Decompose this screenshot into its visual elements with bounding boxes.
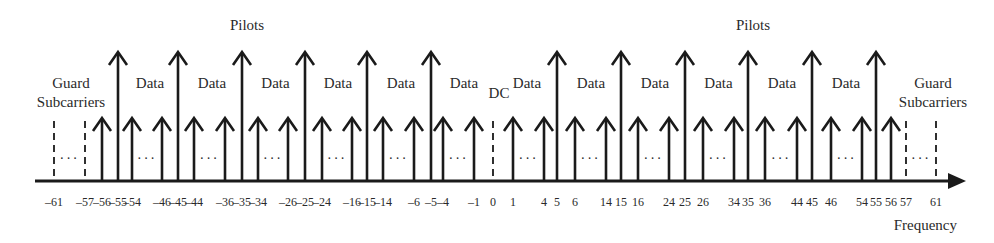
- ellipsis-mark: ···: [389, 151, 409, 166]
- data-subcarrier-arrow: [882, 118, 900, 181]
- ellipsis-mark: ···: [60, 151, 80, 166]
- tick-label: 36: [759, 195, 771, 209]
- ellipsis-mark: ···: [137, 151, 157, 166]
- data-region-label: Data: [450, 75, 479, 91]
- tick-label: 14: [600, 195, 612, 209]
- data-subcarrier-arrow: [434, 118, 452, 181]
- tick-label: 0: [490, 195, 496, 209]
- data-region-label: Data: [577, 75, 606, 91]
- pilot-subcarrier-arrow: [422, 52, 440, 181]
- data-subcarrier-arrow: [93, 118, 111, 181]
- ellipsis-mark: ···: [911, 151, 931, 166]
- data-region-label: Data: [198, 75, 227, 91]
- pilot-subcarrier-arrow: [803, 52, 821, 181]
- tick-label: 44: [791, 195, 803, 209]
- axis-arrowhead-icon: [948, 173, 966, 189]
- tick-label: 25: [679, 195, 691, 209]
- ellipsis-mark: ···: [709, 151, 729, 166]
- tick-label: –14: [373, 195, 392, 209]
- frequency-axis: [35, 173, 966, 189]
- tick-label: –6: [407, 195, 420, 209]
- data-subcarrier-arrow: [216, 118, 234, 181]
- tick-label: 61: [930, 195, 942, 209]
- axis-label-frequency: Frequency: [894, 217, 958, 233]
- tick-label: 4: [541, 195, 547, 209]
- ellipsis-marks: ········································…: [60, 151, 932, 166]
- data-subcarrier-arrow: [153, 118, 171, 181]
- ellipsis-mark: ···: [581, 151, 601, 166]
- data-subcarrier-arrow: [597, 118, 615, 181]
- ellipsis-mark: ···: [837, 151, 857, 166]
- pilot-subcarrier-arrow: [739, 52, 757, 181]
- guard-label-line2: Subcarriers: [899, 94, 967, 110]
- tick-label: 16: [632, 195, 644, 209]
- subcarrier-lines: [54, 52, 936, 181]
- tick-label: 6: [572, 195, 578, 209]
- data-subcarrier-arrow: [629, 118, 647, 181]
- tick-label: –5: [424, 195, 437, 209]
- data-subcarrier-arrow: [725, 118, 743, 181]
- tick-label: 26: [697, 195, 709, 209]
- ellipsis-mark: ···: [200, 151, 220, 166]
- data-region-label: Data: [832, 75, 861, 91]
- tick-label: 57: [900, 195, 912, 209]
- tick-label: –1: [467, 195, 480, 209]
- data-subcarrier-arrow: [566, 118, 584, 181]
- data-region-label: Data: [324, 75, 353, 91]
- tick-label: –25: [295, 195, 314, 209]
- pilot-subcarrier-arrow: [109, 52, 127, 181]
- tick-label: –54: [122, 195, 141, 209]
- data-subcarrier-arrow: [465, 118, 483, 181]
- pilot-subcarrier-arrow: [548, 52, 566, 181]
- guard-subcarriers-label-left: GuardSubcarriers: [37, 75, 105, 110]
- region-labels: PilotsPilotsDataDataDataDataDataDataData…: [37, 17, 967, 110]
- data-subcarrier-arrow: [660, 118, 678, 181]
- data-subcarrier-arrow: [853, 118, 871, 181]
- pilot-subcarrier-arrow: [676, 52, 694, 181]
- data-subcarrier-arrow: [313, 118, 331, 181]
- data-subcarrier-arrow: [249, 118, 267, 181]
- tick-label: –61: [44, 195, 63, 209]
- tick-label: 46: [825, 195, 837, 209]
- ofdm-subcarrier-diagram: ········································…: [0, 0, 994, 243]
- ellipsis-mark: ···: [771, 151, 791, 166]
- tick-label: –57: [75, 195, 94, 209]
- tick-label: –24: [312, 195, 331, 209]
- data-region-label: Data: [704, 75, 733, 91]
- data-subcarrier-arrow: [123, 118, 141, 181]
- data-subcarrier-arrow: [535, 118, 553, 181]
- pilot-subcarrier-arrow: [612, 52, 630, 181]
- pilot-subcarrier-arrow: [296, 52, 314, 181]
- data-subcarrier-arrow: [405, 118, 423, 181]
- tick-label: 1: [510, 195, 516, 209]
- pilot-subcarrier-arrow: [358, 52, 376, 181]
- pilot-subcarrier-arrow: [169, 52, 187, 181]
- ellipsis-mark: ···: [263, 151, 283, 166]
- pilots-label: Pilots: [736, 17, 770, 33]
- guard-subcarriers-label-right: GuardSubcarriers: [899, 75, 967, 110]
- tick-label: 34: [728, 195, 740, 209]
- guard-label-line2: Subcarriers: [37, 94, 105, 110]
- pilot-subcarrier-arrow: [233, 52, 251, 181]
- tick-label: 5: [554, 195, 560, 209]
- data-subcarrier-arrow: [756, 118, 774, 181]
- tick-label: –34: [248, 195, 267, 209]
- dc-label: DC: [489, 85, 510, 101]
- data-region-label: Data: [768, 75, 797, 91]
- ellipsis-mark: ···: [327, 151, 347, 166]
- tick-label: 56: [885, 195, 897, 209]
- tick-label: –44: [184, 195, 203, 209]
- data-region-label: Data: [261, 75, 290, 91]
- guard-label-line1: Guard: [914, 75, 952, 91]
- tick-labels: –61–57–56–55–54–46–45–44–36–35–34–26–25–…: [44, 195, 942, 209]
- data-region-label: Data: [136, 75, 165, 91]
- data-subcarrier-arrow: [504, 118, 522, 181]
- data-region-label: Data: [641, 75, 670, 91]
- data-subcarrier-arrow: [788, 118, 806, 181]
- ellipsis-mark: ···: [519, 151, 539, 166]
- tick-label: 54: [856, 195, 868, 209]
- data-region-label: Data: [387, 75, 416, 91]
- tick-label: 15: [615, 195, 627, 209]
- pilots-label: Pilots: [230, 17, 264, 33]
- tick-label: 35: [742, 195, 754, 209]
